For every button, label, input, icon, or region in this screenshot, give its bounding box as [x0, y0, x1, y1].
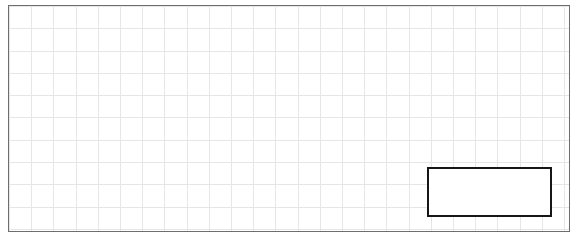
highlight-rectangle[interactable]	[427, 167, 552, 217]
canvas-root	[0, 0, 581, 241]
